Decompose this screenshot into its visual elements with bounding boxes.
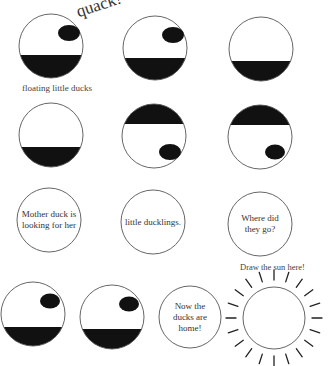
- duck-shape: [162, 27, 184, 43]
- sun-prompt: Draw the sun here!: [240, 262, 305, 272]
- floating-ducks-caption: floating little ducks: [22, 83, 92, 93]
- sun-ray: [305, 340, 313, 346]
- sun-ray: [310, 303, 320, 306]
- sun-drawing-area[interactable]: [226, 270, 322, 366]
- panel-8-text: little ducklings.: [123, 190, 183, 254]
- sun-ray: [286, 354, 289, 364]
- panel-9-text: Where did they go?: [230, 192, 290, 256]
- duck-shape: [119, 297, 139, 312]
- sun-ray: [246, 349, 252, 357]
- duck-shape: [265, 145, 285, 160]
- panel-1-duck-on-water: [19, 14, 83, 79]
- sun-ray: [286, 272, 289, 282]
- panel-5-upside-down: [122, 100, 186, 168]
- sun-ray: [235, 340, 243, 346]
- sun-ray: [259, 272, 262, 282]
- water-bottom: [19, 55, 83, 79]
- duck-shape: [159, 144, 181, 160]
- sun-ray: [310, 330, 320, 333]
- sun-ray: [259, 354, 262, 364]
- panel-3-empty-water: [229, 17, 293, 85]
- sun-ray: [305, 290, 313, 296]
- duck-shape: [58, 25, 80, 41]
- panel-7-text: Mother duck is looking for her: [19, 188, 79, 252]
- duck-shape: [40, 294, 60, 309]
- sun-ray: [228, 330, 238, 333]
- sun-ray: [296, 349, 302, 357]
- panel-4-empty-water: [19, 103, 83, 171]
- water-bottom: [123, 58, 187, 82]
- sun-circle[interactable]: [243, 287, 305, 349]
- panel-11-ducks-home: [80, 285, 144, 353]
- sun-ray: [296, 279, 302, 287]
- water-bottom: [1, 327, 65, 351]
- panel-10-ducks-home: [1, 282, 65, 351]
- panel-12-text: Now the ducks are home!: [160, 285, 220, 349]
- sun-ray: [246, 279, 252, 287]
- panel-2-duck-on-water: [123, 16, 187, 82]
- sun-ray: [235, 290, 243, 296]
- panel-6-upside-down: [228, 101, 292, 169]
- sun-ray: [228, 303, 238, 306]
